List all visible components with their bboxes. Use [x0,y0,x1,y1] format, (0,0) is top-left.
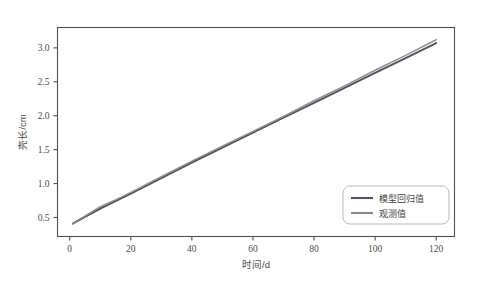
x-tick-label: 20 [126,244,136,254]
x-tick-label: 40 [187,244,197,254]
x-axis-title: 时间/d [242,259,270,270]
y-tick-label: 1.0 [38,179,50,189]
legend-label: 观测值 [379,208,406,219]
legend-label: 模型回归值 [379,193,424,204]
y-tick-label: 0.5 [38,213,50,223]
y-tick-label: 2.5 [38,77,50,87]
y-axis-title: 壳长/cm [17,114,28,149]
x-tick-label: 0 [67,244,72,254]
x-tick-label: 120 [429,244,444,254]
x-tick-label: 100 [368,244,383,254]
y-tick-label: 1.5 [38,145,50,155]
figure-background [0,0,489,281]
x-tick-label: 60 [248,244,258,254]
chart-figure: 020406080100120 0.51.01.52.02.53.0 时间/d … [0,0,489,281]
y-tick-label: 3.0 [38,43,50,53]
chart-legend: 模型回归值观测值 [343,186,449,224]
line-chart: 020406080100120 0.51.01.52.02.53.0 时间/d … [0,0,489,281]
y-tick-label: 2.0 [38,111,50,121]
x-tick-label: 80 [309,244,319,254]
